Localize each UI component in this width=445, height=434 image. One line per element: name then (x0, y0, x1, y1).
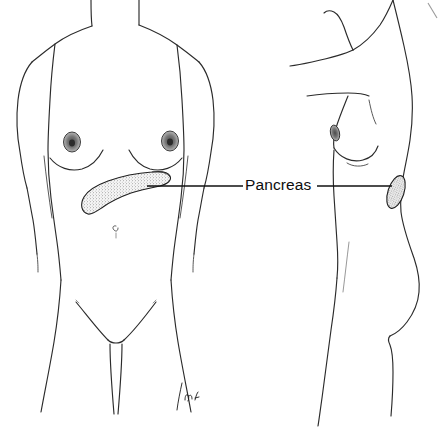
pancreas-lateral-organ[interactable] (383, 173, 409, 210)
breast-left-underline (50, 150, 103, 170)
neck-left-line (91, 0, 92, 26)
lateral-breast-crease (347, 163, 368, 166)
right-arm-inner (194, 188, 204, 254)
pancreas-anterior-organ[interactable] (82, 172, 171, 215)
inner-thigh-right (118, 344, 122, 414)
left-shoulder-line (32, 26, 92, 62)
pubic-outline (108, 340, 124, 343)
lateral-armpit-line (369, 100, 376, 124)
lateral-buttock-line (389, 336, 394, 416)
breast-right-underline (129, 150, 182, 170)
scan-edge-artifact (428, 3, 437, 18)
hip-right-line (171, 280, 191, 412)
pancreas-label: Pancreas (243, 176, 313, 194)
lateral-back-line (393, 0, 412, 178)
navel-mark (113, 226, 118, 231)
lateral-breast-under (334, 146, 378, 161)
hip-left-line (41, 280, 61, 412)
lateral-shoulder-line (353, 0, 393, 50)
anatomy-diagram (0, 0, 445, 434)
signature-slash (177, 383, 182, 410)
nipple-left (69, 140, 75, 147)
lateral-front-thigh (318, 278, 337, 426)
lateral-view (290, 0, 419, 426)
lateral-arm-lower (290, 50, 353, 66)
lateral-chest-line (307, 93, 369, 96)
groin-right-line (124, 302, 156, 340)
lateral-nipple (329, 124, 341, 142)
nipple-right (167, 139, 173, 146)
left-hand-line (37, 254, 38, 272)
lateral-abdomen-line (333, 150, 338, 278)
right-hand-line (193, 254, 194, 272)
groin-left-line (76, 302, 108, 340)
left-arm-outer (17, 62, 32, 188)
left-arm-inner (27, 188, 37, 254)
lateral-abdomen-crease (343, 242, 349, 292)
right-arm-outer (199, 62, 214, 188)
lateral-arm-upper (324, 11, 353, 50)
inner-thigh-left (110, 344, 114, 414)
right-shoulder-line (139, 25, 199, 62)
illustration-canvas: Pancreas (0, 0, 445, 434)
anterior-view (17, 0, 214, 414)
